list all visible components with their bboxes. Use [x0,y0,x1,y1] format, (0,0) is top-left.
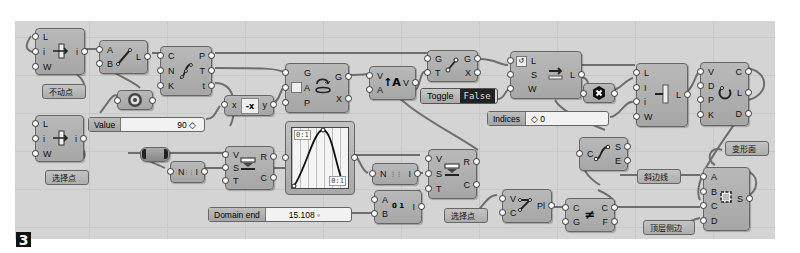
input-grip[interactable] [507,85,514,92]
evaluate-curve-component[interactable]: C N K P T t [160,46,212,96]
value-slider[interactable]: Value 90 ◇ [88,117,205,132]
series-component-1[interactable]: N I ⋮⋮ [170,161,205,183]
input-grip[interactable] [222,151,229,158]
amplitude-component[interactable]: V A V ↑A [369,66,416,100]
output-grip[interactable] [578,71,585,78]
output-grip[interactable] [745,110,752,117]
input-grip[interactable] [499,209,506,216]
param-select-point-1[interactable]: 选择点 [45,170,89,185]
end-points-component[interactable]: C S E [579,137,628,171]
boolean-toggle[interactable]: Toggle False [420,88,498,104]
output-grip[interactable] [473,181,480,188]
input-grip[interactable] [32,63,39,70]
input-grip[interactable] [366,86,373,93]
remap-component-2[interactable]: V S T R C [428,149,477,199]
input-grip[interactable] [114,97,121,104]
input-grip[interactable] [700,188,707,195]
input-grip[interactable] [700,173,707,180]
input-grip[interactable] [282,69,289,76]
input-grip[interactable] [371,196,378,203]
output-grip[interactable] [745,89,752,96]
output-grip[interactable] [81,48,88,55]
output-grip[interactable] [473,158,480,165]
output-grip[interactable] [270,153,277,160]
indices-slider[interactable]: Indices ◇ 0 [487,111,609,126]
output-grip[interactable] [412,79,419,86]
input-grip[interactable] [167,168,174,175]
flip-curve-component[interactable]: C G C F ≠ [565,198,615,232]
output-grip[interactable] [745,68,752,75]
output-grip[interactable] [80,135,87,142]
input-grip[interactable] [157,52,164,59]
expression-component[interactable]: x y -x [224,95,274,116]
output-grip[interactable] [270,101,277,108]
param-select-point-2[interactable]: 选择点 [444,208,488,223]
output-grip[interactable] [684,91,691,98]
input-grip[interactable] [576,150,583,157]
move-component[interactable]: G T G X [427,50,478,82]
input-grip[interactable] [32,33,39,40]
input-grip[interactable] [562,218,569,225]
input-grip[interactable] [221,101,228,108]
output-grip[interactable] [746,195,753,202]
input-grip[interactable] [96,46,103,53]
output-grip[interactable] [474,55,481,62]
output-grip[interactable] [624,157,631,164]
input-grip[interactable] [700,217,707,224]
output-grip[interactable] [418,203,425,210]
cull-pattern-component[interactable] [583,83,615,103]
output-grip[interactable] [208,52,215,59]
param-top-edge[interactable]: 顶层侧边 [643,220,695,235]
divide-length-component-2[interactable]: L i W i [35,115,84,162]
input-grip[interactable] [424,55,431,62]
param-deformed-surface[interactable]: 变形面 [725,141,769,156]
series-component-2[interactable]: N I ⋮⋮ [372,163,418,185]
input-grip[interactable] [697,111,704,118]
input-grip[interactable] [580,90,587,97]
output-grip[interactable] [144,53,151,60]
remap-component-1[interactable]: V S T R C [225,146,274,190]
line-component[interactable]: A B L [99,40,148,74]
rotate-component[interactable]: G A P G X [285,63,349,113]
input-grip[interactable] [697,82,704,89]
input-grip[interactable] [222,164,229,171]
input-grip[interactable] [507,57,514,64]
param-fixed-point[interactable]: 不动点 [42,84,86,99]
input-grip[interactable] [425,155,432,162]
graph-mapper[interactable]: 0:1 0:1 [285,121,355,195]
domain-end-slider[interactable]: Domain end 15.108 ◦ [208,207,352,222]
output-grip[interactable] [611,204,618,211]
input-grip[interactable] [507,71,514,78]
shift-list-component[interactable]: ↺ L S W L [510,51,582,99]
input-grip[interactable] [425,170,432,177]
number-param-component[interactable] [117,90,153,110]
input-grip[interactable] [633,84,640,91]
input-grip[interactable] [282,84,289,91]
output-grip[interactable] [201,168,208,175]
input-grip[interactable] [157,67,164,74]
output-grip[interactable] [351,154,358,161]
output-grip[interactable] [345,95,352,102]
construct-domain-component[interactable]: A B I 0 1 [374,190,422,224]
edge-surface-component[interactable]: A B C D S [703,167,750,231]
output-grip[interactable] [208,82,215,89]
polyline-component[interactable]: V D P K C L D [700,62,749,126]
toggle-value[interactable]: False [460,89,495,103]
input-grip[interactable] [366,72,373,79]
input-grip[interactable] [282,99,289,106]
input-grip[interactable] [499,195,506,202]
input-grip[interactable] [369,170,376,177]
input-grip[interactable] [32,48,39,55]
input-grip[interactable] [633,113,640,120]
param-oblique-line[interactable]: 斜边线 [637,169,681,184]
extend-component[interactable] [140,147,170,162]
input-grip[interactable] [282,154,289,161]
input-grip[interactable] [32,150,39,157]
output-grip[interactable] [611,218,618,225]
output-grip[interactable] [611,90,618,97]
output-grip[interactable] [270,174,277,181]
output-grip[interactable] [548,202,555,209]
output-grip[interactable] [345,73,352,80]
input-grip[interactable] [697,96,704,103]
input-grip[interactable] [32,120,39,127]
